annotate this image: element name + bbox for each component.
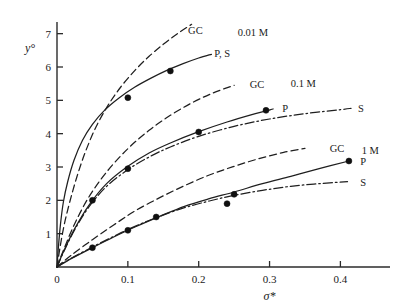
data-point-marker (125, 227, 131, 233)
series-label-gc: GC (188, 25, 203, 36)
series-label-p-s: P, S (214, 48, 230, 59)
concentration-label: 0.01 M (238, 27, 269, 38)
markers-group (89, 68, 351, 251)
curve-s (57, 182, 347, 267)
y-tick-label: 6 (46, 61, 52, 73)
data-point-marker (125, 166, 131, 172)
figure-container: 123456700.10.20.30.4σ*y° GCP, S0.01 MGCP… (0, 0, 403, 304)
y-tick-label: 4 (46, 128, 52, 140)
curve-p-s (57, 54, 211, 267)
x-tick-label: 0 (54, 273, 60, 285)
curve-gc (57, 24, 192, 267)
y-tick-label: 1 (46, 228, 52, 240)
x-tick-label: 0.1 (121, 273, 135, 285)
data-point-marker (196, 129, 202, 135)
curves-group (57, 24, 351, 267)
series-label-gc: GC (250, 79, 265, 90)
data-point-marker (346, 158, 352, 164)
y-tick-label: 2 (46, 194, 52, 206)
series-label-s: S (360, 177, 366, 188)
series-label-p: P (360, 156, 366, 167)
series-label-s: S (358, 103, 364, 114)
y-tick-label: 5 (46, 94, 52, 106)
data-point-marker (89, 197, 95, 203)
data-point-marker (224, 201, 230, 207)
data-point-marker (231, 191, 237, 197)
y-axis-title: y° (24, 41, 35, 55)
x-tick-label: 0.3 (263, 273, 277, 285)
x-axis-title: σ* (264, 289, 276, 303)
series-label-p: P (282, 103, 288, 114)
axes-group: 123456700.10.20.30.4σ*y° (24, 22, 390, 303)
y-tick-label: 7 (46, 28, 52, 40)
y-tick-label: 3 (46, 161, 52, 173)
data-point-marker (263, 107, 269, 113)
x-tick-label: 0.2 (192, 273, 206, 285)
data-point-marker (89, 245, 95, 251)
concentration-label: 1 M (362, 145, 380, 156)
chart-plot: 123456700.10.20.30.4σ*y° GCP, S0.01 MGCP… (0, 0, 403, 304)
series-label-gc: GC (330, 143, 345, 154)
data-point-marker (125, 95, 131, 101)
data-point-marker (153, 214, 159, 220)
concentration-label: 0.1 M (291, 78, 317, 89)
x-tick-label: 0.4 (334, 273, 348, 285)
curve-p (57, 109, 273, 267)
data-point-marker (167, 68, 173, 74)
